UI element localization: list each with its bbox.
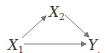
edge-x1-x2 xyxy=(22,16,46,38)
node-x2-subscript: 2 xyxy=(59,12,65,22)
node-y: Y. xyxy=(88,38,100,53)
node-x2: X2 xyxy=(49,5,65,22)
node-x1-label: X xyxy=(8,37,18,53)
node-x1: X1 xyxy=(8,38,24,53)
node-y-subscript: . xyxy=(97,45,100,53)
node-y-label: Y xyxy=(88,37,97,53)
edge-x2-y xyxy=(65,15,89,37)
node-x1-subscript: 1 xyxy=(18,45,24,53)
node-x2-label: X xyxy=(49,4,59,20)
